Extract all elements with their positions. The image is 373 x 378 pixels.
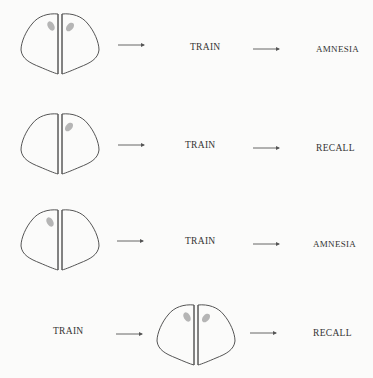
right-arrow-icon (253, 145, 281, 151)
brain-diagram-row4 (156, 303, 236, 367)
arrow-row4-a (116, 331, 144, 337)
label-recall-row4: RECALL (313, 329, 352, 339)
arrow-row4-b (250, 330, 278, 336)
label-train-row3: TRAIN (185, 237, 216, 247)
right-arrow-icon (250, 330, 278, 336)
brain-diagram-row2 (20, 112, 100, 176)
right-arrow-icon (116, 331, 144, 337)
label-train-row1: TRAIN (190, 43, 221, 53)
right-arrow-icon (253, 46, 281, 52)
arrow-row1-b (253, 46, 281, 52)
arrow-row3-a (117, 238, 145, 244)
brain-icon (156, 303, 236, 367)
brain-icon (20, 112, 100, 176)
label-amnesia-row3: AMNESIA (313, 240, 356, 249)
brain-icon (20, 208, 100, 272)
brain-diagram-row1 (20, 12, 100, 76)
brain-icon (20, 12, 100, 76)
right-arrow-icon (118, 42, 146, 48)
brain-diagram-row3 (20, 208, 100, 272)
label-amnesia-row1: AMNESIA (316, 45, 359, 54)
arrow-row2-a (118, 142, 146, 148)
arrow-row3-b (253, 241, 281, 247)
label-recall-row2: RECALL (316, 144, 355, 154)
right-arrow-icon (253, 241, 281, 247)
arrow-row2-b (253, 145, 281, 151)
label-train-row4: TRAIN (53, 327, 84, 337)
arrow-row1-a (118, 42, 146, 48)
right-arrow-icon (118, 142, 146, 148)
right-arrow-icon (117, 238, 145, 244)
label-train-row2: TRAIN (185, 141, 216, 151)
